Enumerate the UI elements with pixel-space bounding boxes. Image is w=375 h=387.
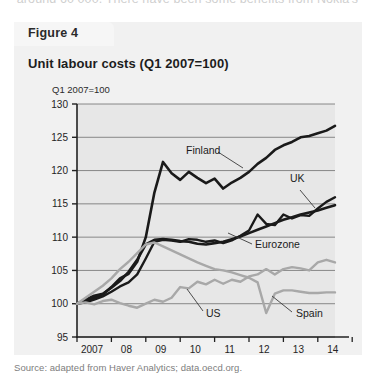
x-tick-label: 11 [224,344,235,355]
x-tick-label: 2007 [81,344,104,355]
source-note: Source: adapted from Haver Analytics; da… [14,362,242,373]
y-tick-label: 110 [52,232,68,243]
y-tick-label: 120 [51,165,68,176]
annotation-uk: UK [290,172,305,184]
y-tick-label: 100 [51,298,68,309]
y-axis-ticks: 95100105110115120125130 [51,99,77,343]
y-tick-label: 115 [52,198,68,209]
annotation-spain: Spain [296,307,323,319]
y-tick-label: 95 [57,332,69,343]
figure-card: Figure 4 Unit labour costs (Q1 2007=100)… [14,22,362,355]
y-tick-label: 125 [51,132,68,143]
x-tick-label: 13 [293,344,305,355]
x-axis-ticks: 200708091011121314 [77,337,352,355]
annotation-finland: Finland [186,144,221,156]
annotation-eurozone: Eurozone [255,238,300,250]
x-tick-label: 09 [155,344,167,355]
x-tick-label: 10 [190,344,202,355]
annotation-us: US [206,307,221,319]
cut-off-page-text: around 60 000. There have been some bene… [0,0,375,6]
plot-area: 95100105110115120125130 2007080910111213… [14,22,362,355]
y-tick-label: 130 [51,99,68,110]
y-tick-label: 105 [51,265,68,276]
line-chart: 95100105110115120125130 2007080910111213… [14,22,362,355]
x-tick-label: 08 [121,344,133,355]
x-tick-label: 12 [258,344,270,355]
x-tick-label: 14 [327,344,339,355]
